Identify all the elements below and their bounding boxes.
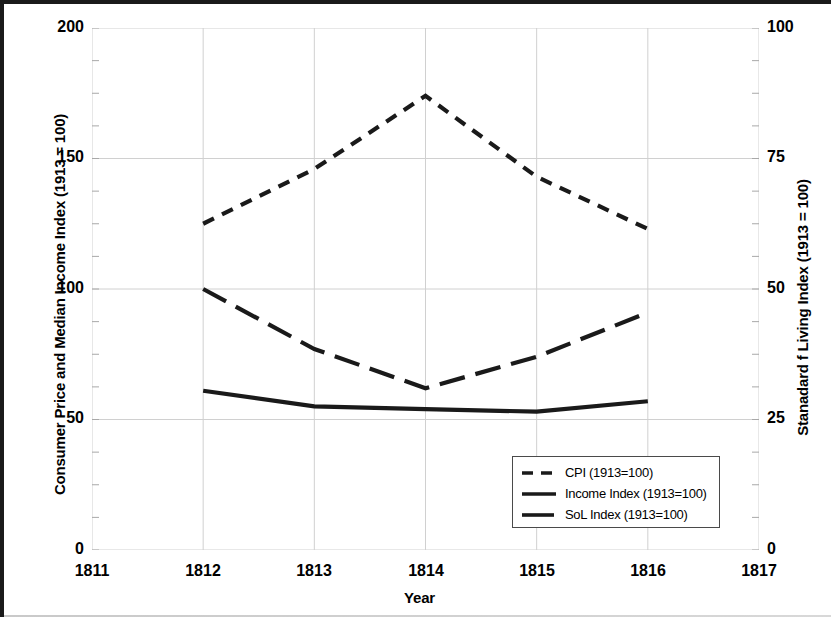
y-right-tick-0: 0 [767,540,827,558]
legend-label-income: Income Index (1913=100) [565,486,707,501]
x-tick-1814: 1814 [386,562,466,580]
y-right-tick-75: 75 [767,148,827,166]
legend-item-income: Income Index (1913=100) [521,483,711,504]
y-right-tick-50: 50 [767,279,827,297]
y-right-tick-100: 100 [767,18,827,36]
chart-legend: CPI (1913=100) Income Index (1913=100) S… [512,456,720,528]
x-tick-1815: 1815 [497,562,577,580]
legend-label-cpi: CPI (1913=100) [565,465,653,480]
y-left-tick-200: 200 [24,18,84,36]
legend-item-cpi: CPI (1913=100) [521,462,711,483]
y-right-tick-25: 25 [767,409,827,427]
legend-swatch-income [521,487,561,501]
y-left-tick-150: 150 [24,148,84,166]
x-tick-1811: 1811 [52,562,132,580]
y-left-tick-100: 100 [24,279,84,297]
x-tick-1812: 1812 [163,562,243,580]
y-axis-left-title: Consumer Price and Median Income Index (… [51,45,68,565]
x-tick-1817: 1817 [719,562,799,580]
x-tick-1813: 1813 [274,562,354,580]
x-axis-title: Year [4,589,831,606]
y-left-tick-0: 0 [24,540,84,558]
legend-label-sol: SoL Index (1913=100) [565,507,688,522]
legend-swatch-cpi [521,466,561,480]
x-tick-1816: 1816 [608,562,688,580]
legend-item-sol: SoL Index (1913=100) [521,504,711,525]
chart-container: Consumer Price and Median Income Index (… [0,0,831,617]
legend-swatch-sol [521,508,561,522]
y-left-tick-50: 50 [24,409,84,427]
